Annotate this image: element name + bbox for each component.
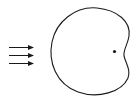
bean-shaped-body bbox=[51, 8, 129, 95]
diagram-canvas bbox=[0, 0, 139, 101]
marked-point bbox=[113, 50, 116, 53]
incoming-arrows bbox=[9, 48, 33, 64]
